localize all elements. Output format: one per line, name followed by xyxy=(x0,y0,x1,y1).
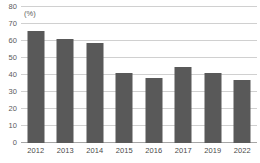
y-tick-label-70: 70 xyxy=(0,20,17,28)
y-tick-label-80: 80 xyxy=(0,3,17,11)
bar-chart: (%) 01020304050607080 201220132014201520… xyxy=(0,0,260,163)
bar-2016[interactable] xyxy=(145,78,162,143)
y-tick-label-30: 30 xyxy=(0,88,17,96)
bars-group xyxy=(21,7,257,143)
x-tick-label-2014: 2014 xyxy=(80,147,110,155)
bar-2014[interactable] xyxy=(86,43,103,143)
x-axis-tick-labels: 20122013201420152016201720192022 xyxy=(21,147,257,161)
y-tick-label-0: 0 xyxy=(0,139,17,147)
bar-2012[interactable] xyxy=(27,31,44,143)
bar-slot xyxy=(169,7,199,143)
y-tick-label-50: 50 xyxy=(0,54,17,62)
y-tick-label-40: 40 xyxy=(0,71,17,79)
bar-2022[interactable] xyxy=(234,80,251,143)
y-tick-label-60: 60 xyxy=(0,37,17,45)
x-tick-label-2016: 2016 xyxy=(139,147,169,155)
bar-slot xyxy=(21,7,51,143)
bar-slot xyxy=(139,7,169,143)
bar-slot xyxy=(51,7,81,143)
bar-slot xyxy=(228,7,258,143)
bar-2019[interactable] xyxy=(204,73,221,143)
plot-area xyxy=(21,7,257,143)
bar-slot xyxy=(198,7,228,143)
bar-2015[interactable] xyxy=(116,73,133,143)
bar-slot xyxy=(80,7,110,143)
x-tick-label-2012: 2012 xyxy=(21,147,51,155)
x-tick-label-2019: 2019 xyxy=(198,147,228,155)
bar-2017[interactable] xyxy=(175,67,192,144)
x-tick-label-2017: 2017 xyxy=(169,147,199,155)
bar-2013[interactable] xyxy=(57,39,74,143)
x-tick-label-2013: 2013 xyxy=(51,147,81,155)
bar-slot xyxy=(110,7,140,143)
y-tick-label-10: 10 xyxy=(0,122,17,130)
y-tick-label-20: 20 xyxy=(0,105,17,113)
x-tick-label-2015: 2015 xyxy=(110,147,140,155)
x-tick-label-2022: 2022 xyxy=(228,147,258,155)
